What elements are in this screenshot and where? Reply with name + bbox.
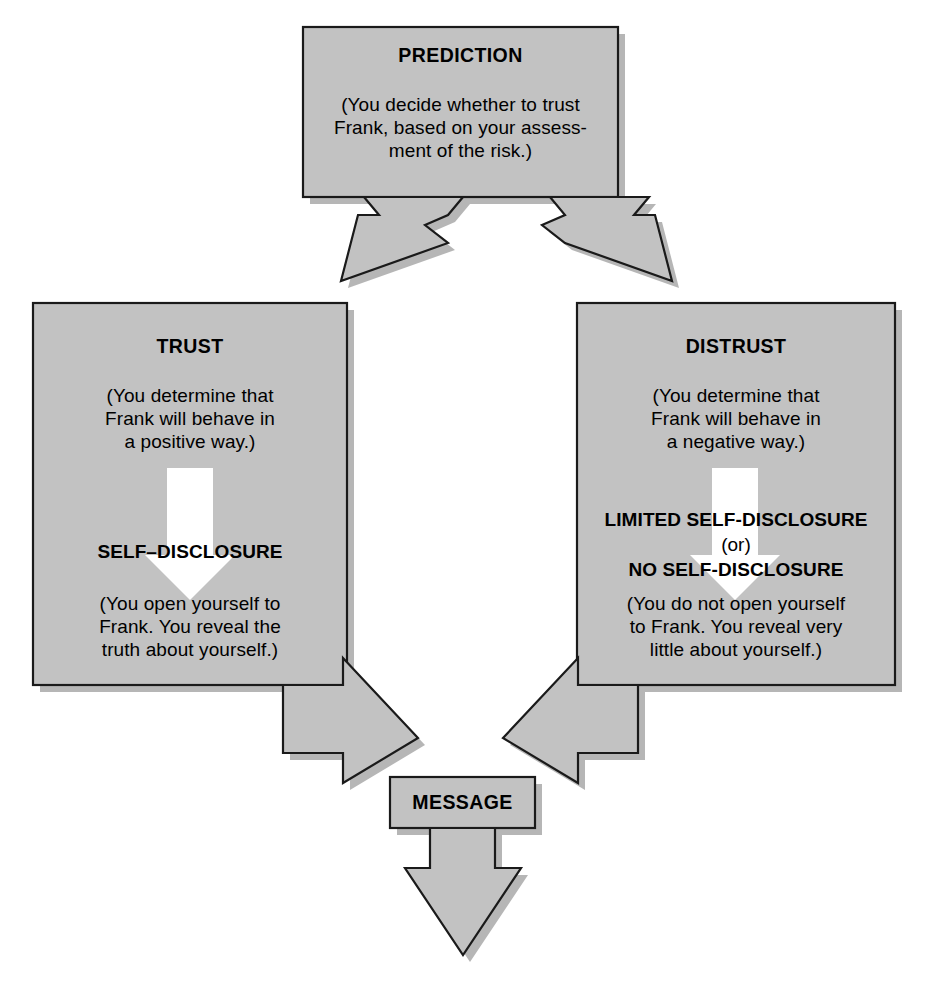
trust-outcome-line-1: (You open yourself to <box>38 592 342 615</box>
distrust-outcome-line-2: to Frank. You reveal very <box>582 615 890 638</box>
message-output-arrow <box>405 828 521 955</box>
message-heading: MESSAGE <box>390 791 535 815</box>
trust-body-line-3: a positive way.) <box>38 430 342 453</box>
distrust-body-line-3: a negative way.) <box>582 430 890 453</box>
prediction-body-line-1: (You decide whether to trust <box>308 93 613 116</box>
trust-body-line-1: (You determine that <box>38 384 342 407</box>
distrust-outcome-body: (You do not open yourself to Frank. You … <box>582 592 890 662</box>
trust-body: (You determine that Frank will behave in… <box>38 384 342 454</box>
distrust-outcome-heading-1: LIMITED SELF-DISCLOSURE <box>577 508 895 531</box>
distrust-outcome-line-3: little about yourself.) <box>582 638 890 661</box>
trust-body-line-2: Frank will behave in <box>38 407 342 430</box>
trust-outcome-line-2: Frank. You reveal the <box>38 615 342 638</box>
distrust-body: (You determine that Frank will behave in… <box>582 384 890 454</box>
prediction-heading: PREDICTION <box>303 44 618 68</box>
trust-outcome-line-3: truth about yourself.) <box>38 638 342 661</box>
prediction-body-line-3: ment of the risk.) <box>308 139 613 162</box>
distrust-body-line-1: (You determine that <box>582 384 890 407</box>
distrust-outcome-line-1: (You do not open yourself <box>582 592 890 615</box>
distrust-outcome-connector: (or) <box>577 533 895 556</box>
trust-heading: TRUST <box>33 335 347 359</box>
distrust-heading: DISTRUST <box>577 335 895 359</box>
distrust-body-line-2: Frank will behave in <box>582 407 890 430</box>
trust-outcome-heading: SELF–DISCLOSURE <box>33 540 347 563</box>
distrust-outcome-heading-2: NO SELF-DISCLOSURE <box>577 558 895 581</box>
prediction-body-line-2: Frank, based on your assess- <box>308 116 613 139</box>
trust-outcome-body: (You open yourself to Frank. You reveal … <box>38 592 342 662</box>
prediction-body: (You decide whether to trust Frank, base… <box>308 93 613 163</box>
